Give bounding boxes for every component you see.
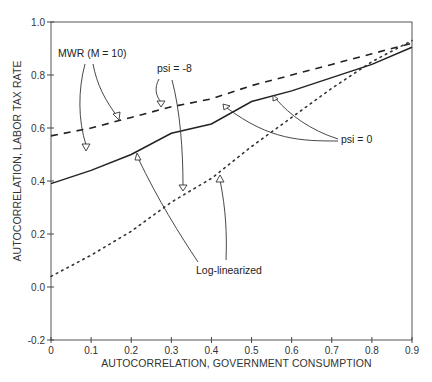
- annotations: MWR (M = 10) psi = -8 psi = 0 Log-linear…: [58, 47, 372, 276]
- y-tick-label: 0.4: [31, 176, 45, 187]
- y-tick-label: 0.0: [31, 282, 45, 293]
- line-chart: 00.10.20.30.40.50.60.70.80.9-0.20.00.20.…: [0, 0, 432, 382]
- x-tick-label: 0.6: [285, 345, 299, 356]
- mwr-arrow-1: [80, 64, 86, 145]
- loglin-arrow-2: [220, 180, 226, 260]
- psi-neg8-arrow-1: [156, 79, 161, 102]
- y-axis-title: AUTOCORRELATION, LABOR TAX RATE: [11, 60, 23, 261]
- annotation-mwr: MWR (M = 10): [58, 47, 127, 59]
- mwr-arrow-2: [93, 64, 117, 116]
- y-tick-label: -0.2: [28, 335, 46, 346]
- loglin-arrowhead-2: [216, 175, 224, 182]
- series-group: [51, 40, 412, 276]
- x-tick-label: 0.3: [164, 345, 178, 356]
- y-tick-label: 0.6: [31, 123, 45, 134]
- x-tick-label: 0.2: [124, 345, 138, 356]
- loglin-arrow-1: [138, 158, 198, 262]
- annotation-loglin: Log-linearized: [196, 264, 262, 276]
- psi-neg8-arrowhead-2: [179, 185, 187, 191]
- annotation-psi-0: psi = 0: [341, 133, 372, 145]
- loglin-arrowhead-1: [135, 153, 141, 160]
- x-tick-label: 0.7: [325, 345, 339, 356]
- annotation-psi-neg8: psi = -8: [157, 62, 192, 74]
- psi0-arrow-2: [276, 99, 338, 139]
- x-tick-label: 0.9: [405, 345, 419, 356]
- y-tick-label: 1.0: [31, 17, 45, 28]
- psi-neg8-arrowhead-1: [157, 101, 165, 107]
- y-tick-label: 0.2: [31, 229, 45, 240]
- mwr-arrowhead-2: [113, 112, 120, 120]
- x-axis-title: AUTOCORRELATION, GOVERNMENT CONSUMPTION: [101, 357, 372, 369]
- x-tick-label: 0.1: [84, 345, 98, 356]
- x-tick-label: 0.4: [204, 345, 218, 356]
- x-tick-label: 0.8: [365, 345, 379, 356]
- x-tick-label: 0: [48, 345, 54, 356]
- x-tick-label: 0.5: [245, 345, 259, 356]
- y-tick-label: 0.8: [31, 70, 45, 81]
- mwr-arrowhead-1: [82, 144, 90, 151]
- series-line-solid: [51, 47, 412, 183]
- series-line-dotted: [51, 41, 412, 277]
